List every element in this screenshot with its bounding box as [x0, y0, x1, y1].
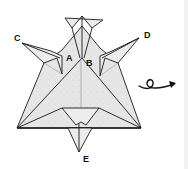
label-a: A — [66, 53, 73, 63]
top-flap — [65, 16, 103, 28]
point-e — [68, 128, 92, 152]
label-c: C — [14, 33, 21, 43]
label-e: E — [83, 154, 89, 164]
origami-model — [17, 16, 141, 152]
turn-over-icon — [139, 80, 176, 89]
label-d: D — [144, 30, 151, 40]
label-b: B — [86, 58, 93, 68]
origami-diagram: A B C D E — [0, 0, 188, 169]
